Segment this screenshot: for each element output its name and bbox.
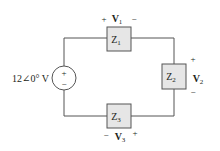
voltage-source: + − 12∠0° V — [12, 66, 76, 90]
voltage-v3: − V3 + — [103, 128, 137, 144]
impedance-z1: Z1 — [107, 27, 131, 51]
v3-plus: + — [132, 128, 137, 138]
impedance-z2: Z2 — [162, 64, 186, 89]
voltage-v2: + V2 − — [190, 54, 203, 97]
voltage-v1: + V1 − — [101, 13, 136, 26]
circuit-diagram: + − 12∠0° V Z1 Z2 Z3 + V1 − + V2 − − V3 … — [0, 0, 220, 151]
v3-minus: − — [103, 130, 108, 140]
v1-minus: − — [131, 14, 136, 24]
v1-plus: + — [101, 14, 106, 24]
v2-minus: − — [190, 87, 195, 97]
v3-label: V3 — [115, 131, 126, 144]
v2-label: V2 — [193, 73, 204, 86]
v1-label: V1 — [112, 13, 123, 26]
impedance-z3: Z3 — [107, 104, 131, 128]
source-plus: + — [61, 68, 66, 78]
source-label: 12∠0° V — [12, 73, 50, 84]
source-minus: − — [61, 79, 66, 89]
v2-plus: + — [190, 54, 195, 64]
